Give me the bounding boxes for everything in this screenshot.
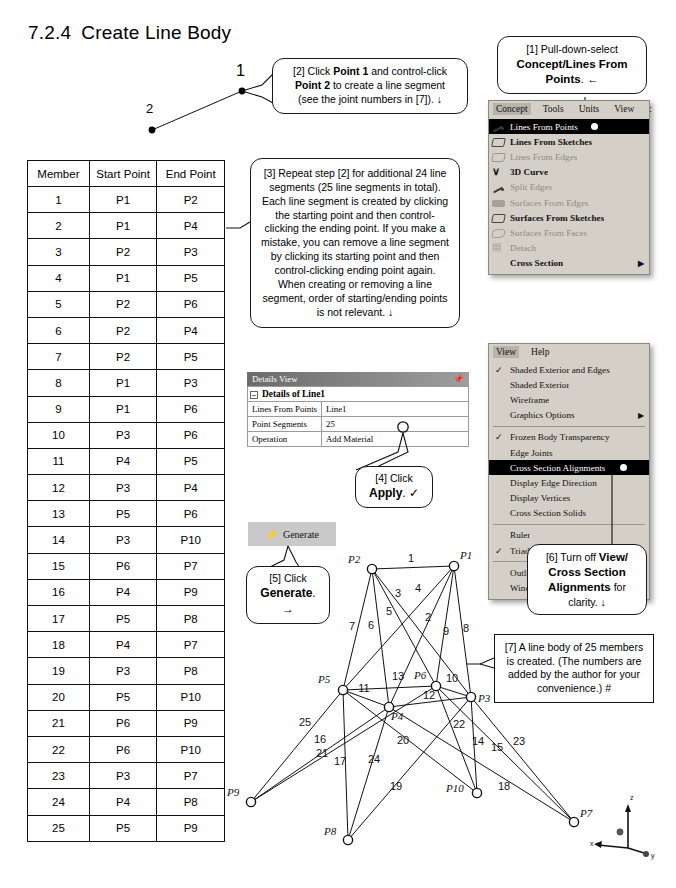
svg-text:y: y xyxy=(651,852,655,860)
svg-text:x: x xyxy=(590,840,594,847)
svg-text:z: z xyxy=(630,794,634,801)
triad-icon: z x y xyxy=(0,0,676,888)
